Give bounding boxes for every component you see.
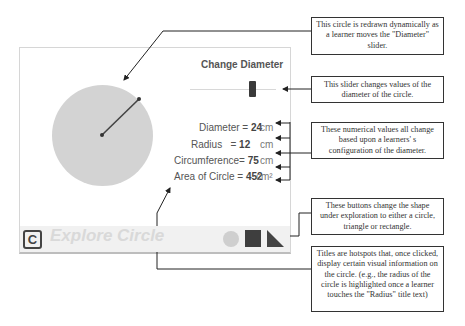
diameter-label[interactable]: Diameter [199, 122, 240, 133]
circumference-label[interactable]: Circumference [174, 155, 239, 166]
area-row[interactable]: Area of Circle = 452 [174, 171, 263, 182]
callout-slider: This slider changes values of the diamet… [311, 76, 444, 103]
triangle-shape-button[interactable] [267, 230, 284, 247]
radius-unit: cm [260, 139, 273, 150]
circumference-value: 75 [248, 155, 259, 166]
radius-row[interactable]: Radius = 12 [191, 139, 250, 150]
callout-circle: This circle is redrawn dynamically as a … [311, 17, 444, 55]
circumference-unit: cm [260, 155, 273, 166]
callout-title-hotspots: Titles are hotspots that, once clicked, … [311, 246, 444, 312]
change-diameter-title: Change Diameter [201, 59, 283, 70]
circumference-row[interactable]: Circumference= 75 [174, 155, 259, 166]
area-label[interactable]: Area of Circle [174, 171, 235, 182]
app-title: Explore Circle [50, 226, 164, 246]
diameter-slider-track[interactable] [190, 89, 276, 90]
callout-shape-buttons: These buttons change the shape under exp… [311, 198, 444, 235]
radius-label[interactable]: Radius [191, 139, 222, 150]
rectangle-shape-button[interactable] [245, 230, 261, 247]
diameter-slider-thumb[interactable] [249, 81, 256, 97]
circle-shape-button[interactable] [223, 231, 239, 247]
diameter-row[interactable]: Diameter = 24 [199, 122, 262, 133]
callout-values: These numerical values all change based … [311, 122, 444, 159]
diameter-unit: cm [260, 122, 273, 133]
radius-value: 12 [239, 139, 250, 150]
area-unit: cm² [256, 171, 273, 182]
app-logo-icon: C [23, 230, 42, 249]
